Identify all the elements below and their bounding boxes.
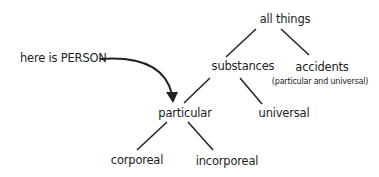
node-incorporeal: incorporeal (196, 154, 259, 168)
edge-allthings-accidents (281, 29, 309, 55)
edge-particular-incorporeal (188, 122, 213, 150)
edge-substances-universal (240, 78, 262, 104)
node-all-things: all things (260, 12, 311, 26)
node-corporeal: corporeal (111, 153, 163, 167)
callout-arrow (100, 58, 172, 94)
edge-allthings-substances (226, 29, 256, 57)
diagram-edges (0, 0, 379, 177)
node-accidents: accidents (295, 60, 348, 74)
node-substances: substances (212, 59, 275, 73)
node-universal: universal (259, 106, 310, 120)
node-particular: particular (158, 106, 211, 120)
edge-particular-corporeal (137, 122, 167, 150)
edge-substances-particular (184, 78, 210, 103)
node-accidents-note: (particular and universal) (272, 77, 368, 86)
callout-label: here is PERSON (20, 51, 107, 65)
arrowhead-icon (166, 92, 178, 103)
